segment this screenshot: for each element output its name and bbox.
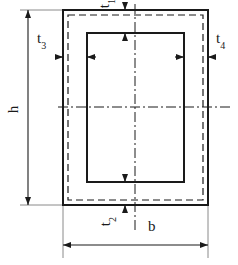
centerlines [58, 4, 232, 232]
t1-label: t1 [96, 0, 115, 14]
t2-label: t2 [97, 212, 116, 232]
t4-label: t4 [216, 30, 225, 49]
t3-label: t3 [37, 30, 46, 49]
rhs-cross-section-figure: h b t1 t2 t3 t4 [0, 0, 238, 265]
width-label: b [148, 218, 156, 237]
cross-section-drawing [0, 0, 238, 265]
height-label: h [5, 99, 24, 121]
